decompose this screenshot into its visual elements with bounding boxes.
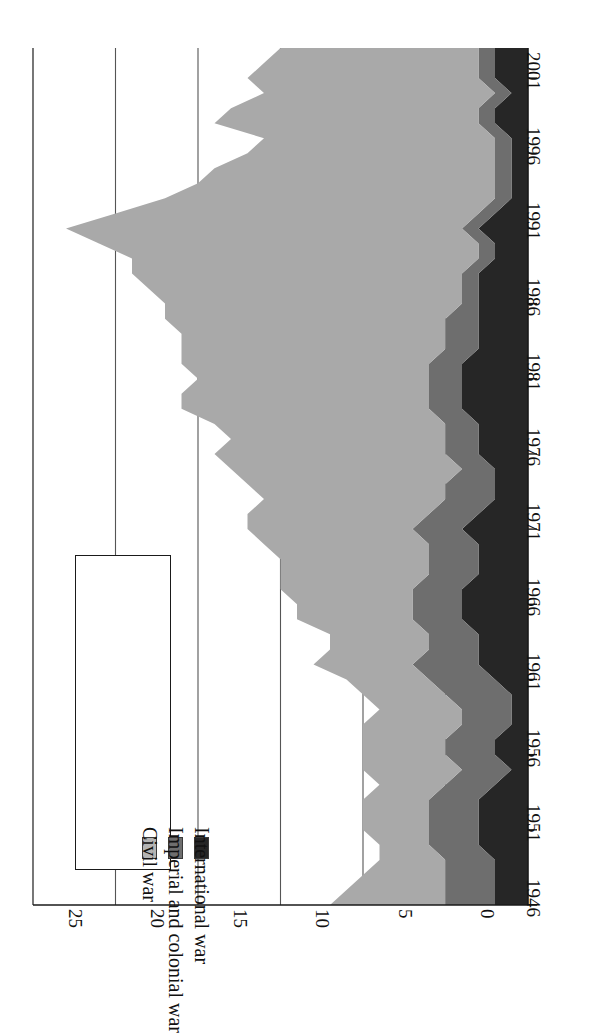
- year-tick-label-1981: 1981: [522, 353, 544, 391]
- value-tick-label-0: 0: [476, 909, 498, 919]
- year-tick-label-1986: 1986: [522, 278, 544, 316]
- value-tick-label-15: 15: [229, 909, 251, 928]
- legend-label-international: International war: [190, 827, 213, 964]
- year-tick-label-1966: 1966: [522, 578, 544, 616]
- value-tick-label-5: 5: [394, 909, 416, 919]
- year-tick-label-1956: 1956: [522, 729, 544, 767]
- year-tick-label-1961: 1961: [522, 653, 544, 691]
- chart-legend: Civil warImperial and colonial warIntern…: [75, 555, 171, 870]
- year-tick-label-1971: 1971: [522, 503, 544, 541]
- year-tick-label-1946: 1946: [522, 879, 544, 917]
- year-tick-label-1996: 1996: [522, 127, 544, 165]
- year-tick-label-2001: 2001: [522, 52, 544, 90]
- legend-label-civil: Civil war: [138, 827, 161, 902]
- year-tick-label-1991: 1991: [522, 202, 544, 240]
- value-tick-label-30: 30: [0, 909, 3, 928]
- legend-label-imperial: Imperial and colonial war: [164, 827, 187, 1033]
- year-tick-label-1951: 1951: [522, 804, 544, 842]
- value-tick-label-10: 10: [311, 909, 333, 928]
- value-tick-label-25: 25: [64, 909, 86, 928]
- year-tick-label-1976: 1976: [522, 428, 544, 466]
